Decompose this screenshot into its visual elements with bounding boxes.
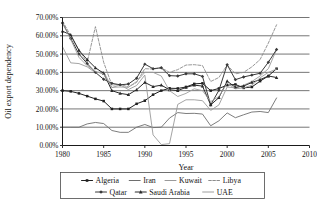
y-tick-label: 60.00% xyxy=(36,31,59,40)
legend-swatch-marker xyxy=(86,179,89,182)
legend-label: Qatar xyxy=(110,188,128,197)
x-axis-title: Year xyxy=(178,163,193,172)
legend-label: Iran xyxy=(143,176,156,185)
x-tick-label: 2005 xyxy=(261,150,276,159)
x-tick-label: 1990 xyxy=(137,150,152,159)
chart-legend: AlgeriaIranKuwaitLibyaQatarSaudi ArabiaU… xyxy=(61,173,265,199)
x-tick-label: 2000 xyxy=(220,150,235,159)
x-tick-label: 1985 xyxy=(96,150,111,159)
legend-label: UAE xyxy=(217,188,233,197)
y-tick-label: 30.00% xyxy=(36,86,59,95)
x-tick-label: 1995 xyxy=(179,150,194,159)
oil-export-dependency-chart: 0.00%10.00%20.00%30.00%40.00%50.00%60.00… xyxy=(0,0,317,205)
legend-label: Algeria xyxy=(96,176,120,185)
y-axis-title: Oil export dependency xyxy=(4,43,13,118)
legend-label: Saudi Arabia xyxy=(149,188,190,197)
y-tick-label: 70.00% xyxy=(36,13,59,22)
legend-label: Libya xyxy=(223,176,242,185)
y-tick-label: 50.00% xyxy=(36,50,59,59)
y-tick-label: 10.00% xyxy=(36,123,59,132)
y-tick-label: 20.00% xyxy=(36,105,59,114)
chart-svg: 0.00%10.00%20.00%30.00%40.00%50.00%60.00… xyxy=(0,0,317,205)
x-tick-label: 2010 xyxy=(302,150,317,159)
legend-label: Kuwait xyxy=(179,176,203,185)
x-tick-label: 1980 xyxy=(55,150,70,159)
y-tick-label: 40.00% xyxy=(36,68,59,77)
plot-area xyxy=(63,18,310,146)
